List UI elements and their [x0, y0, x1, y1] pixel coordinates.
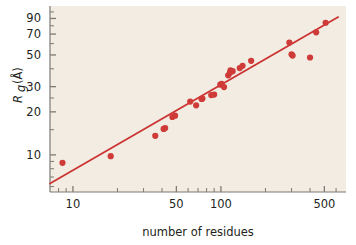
data-point: [162, 125, 168, 131]
x-tick-label: 10: [66, 197, 81, 211]
data-point: [307, 54, 313, 60]
data-point: [211, 92, 217, 98]
y-tick-label: 20: [26, 105, 41, 119]
x-tick-label: 100: [210, 197, 232, 211]
data-point: [313, 29, 319, 35]
data-point: [290, 52, 296, 58]
scatter-plot: 1050100500 102030507090 number of residu…: [0, 0, 356, 245]
data-point: [248, 58, 254, 64]
data-point: [187, 98, 193, 104]
y-tick-label: 70: [26, 27, 41, 41]
x-tick-label: 500: [313, 197, 335, 211]
y-tick-label: 90: [26, 11, 41, 25]
data-point: [221, 84, 227, 90]
y-axis-title-subscript: g: [14, 85, 28, 92]
data-point: [230, 68, 236, 74]
data-point: [239, 63, 245, 69]
data-point: [193, 102, 199, 108]
y-tick-label: 30: [26, 80, 41, 94]
y-tick-label: 50: [26, 48, 41, 62]
data-point: [286, 40, 292, 46]
data-point: [323, 20, 329, 26]
x-axis-title: number of residues: [142, 225, 254, 239]
data-point: [59, 160, 65, 166]
data-point: [108, 153, 114, 159]
y-axis-title-unit: (Å): [10, 67, 25, 84]
y-axis-title-symbol: R: [11, 95, 25, 103]
y-tick-label: 10: [26, 148, 41, 162]
data-point: [172, 113, 178, 119]
data-point: [199, 95, 205, 101]
x-tick-label: 50: [169, 197, 184, 211]
chart-figure: 1050100500 102030507090 number of residu…: [0, 0, 356, 245]
data-point: [152, 133, 158, 139]
